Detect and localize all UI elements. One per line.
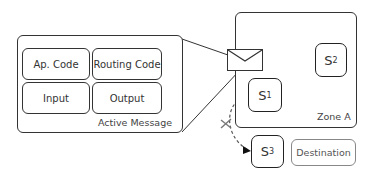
state-s2-name: S <box>324 53 332 68</box>
output-cell: Output <box>92 82 162 114</box>
state-s1: S1 <box>248 78 282 112</box>
zoom-line-bottom <box>182 70 240 132</box>
destination-label: Destination <box>296 147 351 158</box>
zone-a-label: Zone A <box>317 111 351 122</box>
routing-code-label: Routing Code <box>93 59 160 70</box>
output-label: Output <box>110 93 145 104</box>
state-s3: S3 <box>251 135 284 168</box>
active-message-title: Active Message <box>98 117 172 128</box>
ap-code-label: Ap. Code <box>33 59 78 70</box>
input-cell: Input <box>22 82 90 114</box>
state-s3-name: S <box>261 144 269 159</box>
input-label: Input <box>43 93 69 104</box>
ap-code-cell: Ap. Code <box>22 48 90 80</box>
state-s1-name: S <box>258 88 266 103</box>
destination-box: Destination <box>291 139 356 166</box>
arrowhead-s3-icon <box>243 146 251 154</box>
state-s3-sub: 3 <box>269 147 274 156</box>
state-s1-sub: 1 <box>267 91 272 100</box>
state-s2-sub: 2 <box>333 56 338 65</box>
zoom-line-top <box>182 39 228 55</box>
envelope-icon <box>227 49 263 71</box>
cross-icon <box>221 119 231 128</box>
routing-code-cell: Routing Code <box>92 48 162 80</box>
state-s2: S2 <box>315 43 347 77</box>
